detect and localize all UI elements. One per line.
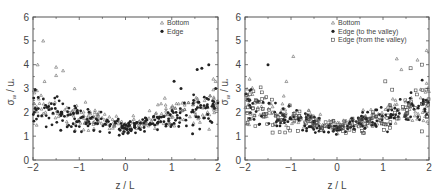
y-tick-label: 0 (235, 155, 241, 166)
y-tick-label: 4 (235, 59, 241, 70)
y-tick-label: 5 (235, 35, 241, 46)
right-y-axis-label: σw / u* (219, 78, 231, 105)
x-tick-label: 1 (169, 162, 175, 173)
y-tick-label: 6 (235, 12, 241, 23)
left-x-axis-label: z / L (116, 180, 135, 191)
y-tick-label: 1 (235, 131, 241, 142)
x-tick-label: 2 (215, 162, 221, 173)
x-tick-label: 0 (123, 162, 129, 173)
x-tick-label: 1 (380, 162, 386, 173)
x-tick-label: 2 (426, 162, 432, 173)
right-data-points (244, 49, 430, 136)
y-tick-label: 6 (23, 12, 29, 23)
left-legend: BottomEdge (160, 19, 189, 36)
y-tick-label: 1 (23, 131, 29, 142)
left-data-points (32, 39, 219, 136)
legend-entry-label: Bottom (167, 19, 189, 26)
legend-entry-label: Bottom (338, 19, 360, 26)
y-tick-label: 4 (23, 59, 29, 70)
left-scatter-panel: −2−10120123456 BottomEdge z / L σw / u* (5, 12, 221, 192)
x-tick-label: −2 (239, 162, 251, 173)
x-tick-label: −2 (27, 162, 39, 173)
legend-entry-label: Edge (from the valley) (338, 36, 406, 44)
right-scatter-panel: −2−10120123456 BottomEdge (to the valley… (219, 12, 432, 192)
y-tick-label: 5 (23, 35, 29, 46)
left-axis-ticks: −2−10120123456 (23, 12, 221, 174)
left-y-axis-label: σw / u* (5, 78, 17, 105)
y-tick-label: 2 (235, 107, 241, 118)
y-tick-label: 3 (235, 83, 241, 94)
right-x-axis-label: z / L (328, 180, 347, 191)
chart-figure: −2−10120123456 BottomEdge z / L σw / u* … (0, 0, 445, 195)
legend-entry-label: Edge (to the valley) (338, 28, 398, 36)
x-tick-label: −1 (285, 162, 297, 173)
y-tick-label: 0 (23, 155, 29, 166)
y-tick-label: 3 (23, 83, 29, 94)
y-tick-label: 2 (23, 107, 29, 118)
x-tick-label: 0 (334, 162, 340, 173)
legend-entry-label: Edge (167, 28, 183, 36)
right-legend: BottomEdge (to the valley)Edge (from the… (331, 19, 406, 44)
left-plot-frame (33, 17, 218, 160)
x-tick-label: −1 (74, 162, 86, 173)
